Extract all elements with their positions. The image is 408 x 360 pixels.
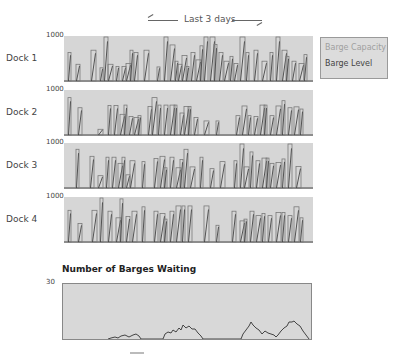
- dock-chart-panel: [64, 197, 313, 243]
- time-range-header: Last 3 days: [140, 14, 270, 28]
- dock-y-max: 1000: [46, 192, 64, 200]
- dock-label: Dock 4: [6, 214, 37, 224]
- legend-barge-level: Barge Level: [325, 59, 372, 68]
- dock-y-max: 1000: [46, 138, 64, 146]
- waiting-y-max: 30: [46, 278, 55, 286]
- arrow-left-icon: [148, 20, 178, 21]
- dock-bar-plot: [64, 90, 313, 136]
- dock-chart-panel: [64, 90, 313, 136]
- dock-label: Dock 1: [6, 53, 37, 63]
- dock-chart-panel: [64, 36, 313, 82]
- waiting-chart-panel: [62, 283, 312, 340]
- waiting-chart-title: Number of Barges Waiting: [62, 264, 196, 274]
- time-range-label: Last 3 days: [184, 14, 235, 24]
- dock-label: Dock 2: [6, 107, 37, 117]
- dock-bar-plot: [64, 197, 313, 243]
- dock-bar-plot: [64, 36, 313, 82]
- dock-label: Dock 3: [6, 160, 37, 170]
- scroll-mark: [130, 352, 144, 354]
- dock-bar-plot: [64, 143, 313, 189]
- legend-barge-capacity: Barge Capacity: [325, 43, 386, 52]
- dock-y-max: 1000: [46, 85, 64, 93]
- dock-chart-panel: [64, 143, 313, 189]
- legend: Barge Capacity Barge Level: [320, 37, 388, 79]
- waiting-line-plot: [63, 284, 311, 339]
- dock-y-max: 1000: [46, 31, 64, 39]
- arrow-right-icon: [232, 20, 262, 21]
